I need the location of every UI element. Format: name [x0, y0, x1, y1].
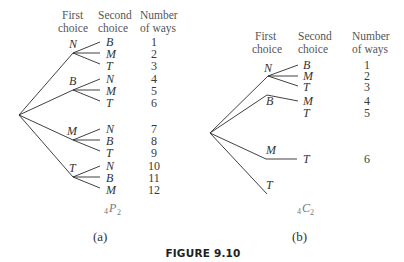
second-branches-a	[73, 42, 100, 188]
svg-text:2: 2	[117, 208, 121, 217]
header-number-of-ways-line1: Number	[140, 9, 178, 21]
first-choice-label: T	[69, 161, 77, 175]
ways-count: 6	[151, 96, 157, 110]
first-choice-label: T	[266, 178, 274, 192]
first-choice-label: N	[263, 61, 273, 75]
first-choice-label: N	[68, 37, 78, 51]
second-choice-label: T	[106, 146, 114, 160]
second-choice-label: T	[303, 106, 311, 120]
second-choice-label: T	[106, 59, 114, 73]
ways-count: 3	[364, 80, 370, 94]
second-choice-label: T	[303, 152, 311, 166]
figure-caption: FIGURE 9.10	[165, 247, 240, 259]
combination-notation: 4 C 2	[297, 201, 314, 217]
ways-count: 6	[364, 152, 370, 166]
header-first-choice-line1: First	[62, 9, 84, 21]
second-choice-label: M	[105, 183, 117, 197]
ways-count: 12	[148, 183, 160, 197]
panel-a-permutation-tree: First choice Second choice Number of way…	[19, 9, 178, 244]
header-first-choice-line2: choice	[58, 22, 88, 34]
root-branches-b	[210, 76, 268, 194]
header-second-choice-line1: Second	[298, 30, 332, 42]
ways-count: 3	[151, 59, 157, 73]
header-first-choice-line1: First	[255, 30, 277, 42]
second-choice-label: T	[106, 96, 114, 110]
first-choice-label: B	[69, 74, 77, 88]
header-first-choice-line2: choice	[252, 43, 282, 55]
header-second-choice-line2: choice	[98, 22, 128, 34]
panel-label-a: (a)	[93, 229, 107, 244]
svg-text:4: 4	[104, 207, 108, 216]
svg-text:4: 4	[297, 207, 301, 216]
permutation-notation: 4 P 2	[104, 201, 121, 217]
panel-b-combination-tree: First choice Second choice Number of way…	[210, 30, 390, 244]
root-branches-a	[19, 53, 73, 177]
first-choice-label: B	[266, 94, 274, 108]
first-choice-label: M	[66, 124, 78, 138]
header-number-of-ways-line2: of ways	[140, 22, 177, 35]
tree-diagram-figure: First choice Second choice Number of way…	[0, 0, 404, 262]
ways-count: 5	[364, 106, 370, 120]
ways-count: 9	[151, 146, 157, 160]
svg-text:2: 2	[310, 208, 314, 217]
header-second-choice-line2: choice	[298, 43, 328, 55]
svg-text:P: P	[108, 201, 117, 215]
header-number-of-ways-line1: Number	[352, 30, 390, 42]
first-choice-label: M	[265, 143, 277, 157]
header-number-of-ways-line2: of ways	[352, 43, 389, 56]
header-second-choice-line1: Second	[98, 9, 132, 21]
panel-label-b: (b)	[292, 229, 307, 244]
